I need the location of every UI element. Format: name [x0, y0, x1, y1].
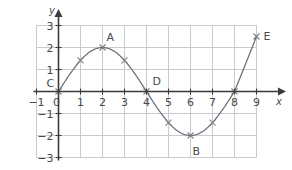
x-tick-label: 2	[99, 97, 106, 108]
y-axis-label: y	[49, 6, 55, 16]
y-tick-label: −2	[37, 130, 53, 141]
x-tick-label: 6	[187, 97, 194, 108]
x-tick-label: 1	[77, 97, 84, 108]
plot-svg	[0, 0, 292, 170]
point-label-c: C	[47, 78, 55, 89]
y-tick-label: 3	[47, 20, 54, 31]
y-tick-label: 2	[47, 42, 54, 53]
x-tick-label: 5	[165, 97, 172, 108]
x-tick-label: 8	[231, 97, 238, 108]
x-tick-label: −1	[28, 97, 44, 108]
x-tick-label: 3	[121, 97, 128, 108]
x-axis-label: x	[276, 97, 282, 107]
point-label-d: D	[153, 76, 161, 87]
y-tick-label: −3	[37, 152, 53, 163]
x-axis-arrowhead	[278, 88, 286, 96]
point-label-a: A	[107, 32, 115, 43]
point-label-e: E	[264, 31, 271, 42]
x-tick-label: 9	[253, 97, 260, 108]
y-axis-arrowhead	[55, 9, 63, 17]
x-tick-label: 4	[143, 97, 150, 108]
x-tick-label: 7	[209, 97, 216, 108]
y-tick-label: −1	[37, 108, 53, 119]
point-label-b: B	[193, 146, 201, 157]
x-tick-label: 0	[53, 97, 60, 108]
graph-figure: −10123456789321−1−2−3 CADBE x y	[0, 0, 292, 170]
y-tick-label: 1	[47, 64, 54, 75]
